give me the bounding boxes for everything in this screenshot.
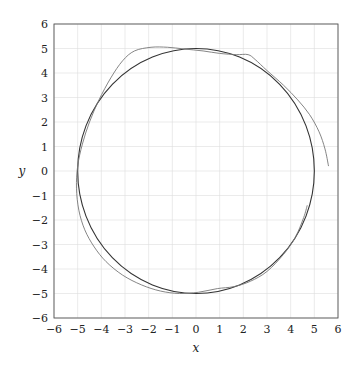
x-tick-labels: −6−5−4−3−2−10123456	[46, 323, 342, 336]
y-tick-label: 2	[41, 116, 48, 129]
x-tick-label: 6	[335, 323, 342, 336]
x-tick-label: 3	[264, 323, 271, 336]
x-tick-label: −3	[117, 323, 133, 336]
y-tick-label: 4	[41, 67, 48, 80]
y-axis-label: y	[18, 164, 26, 178]
y-tick-labels: −6−5−4−3−2−10123456	[32, 18, 48, 325]
y-tick-label: −1	[32, 190, 48, 203]
chart: −6−5−4−3−2−10123456 −6−5−4−3−2−10123456 …	[0, 0, 360, 373]
x-tick-label: 0	[193, 323, 200, 336]
y-tick-label: 0	[41, 165, 48, 178]
x-tick-label: 4	[287, 323, 294, 336]
y-tick-label: −2	[32, 214, 48, 227]
y-tick-label: 5	[41, 43, 48, 56]
y-tick-label: 1	[41, 141, 48, 154]
y-tick-label: −5	[32, 288, 48, 301]
y-tick-label: 6	[41, 18, 48, 31]
x-tick-label: 1	[216, 323, 223, 336]
x-tick-label: −5	[70, 323, 86, 336]
x-tick-label: 5	[311, 323, 318, 336]
x-tick-label: −6	[46, 323, 62, 336]
y-tick-label: −4	[32, 263, 48, 276]
y-tick-label: −6	[32, 312, 48, 325]
x-axis-label: x	[193, 341, 200, 355]
y-tick-label: 3	[41, 92, 48, 105]
x-tick-label: −1	[164, 323, 180, 336]
grid-lines	[54, 24, 338, 318]
x-tick-label: −2	[141, 323, 157, 336]
x-tick-label: −4	[93, 323, 109, 336]
x-tick-label: 2	[240, 323, 247, 336]
y-tick-label: −3	[32, 239, 48, 252]
